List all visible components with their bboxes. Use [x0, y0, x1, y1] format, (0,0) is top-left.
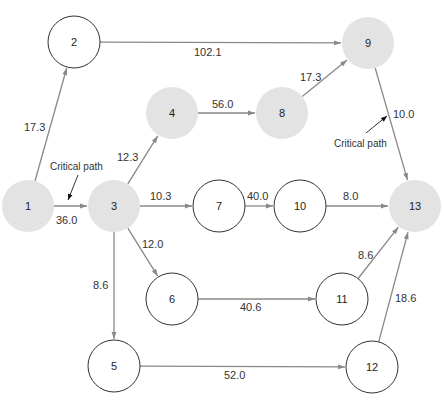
node-6: 6 [146, 273, 198, 325]
node-8: 8 [256, 87, 308, 139]
edge-weight-label: 8.6 [358, 249, 373, 261]
edge-weight-label: 12.3 [117, 151, 138, 163]
critical-path-network-diagram: 12345678910111213 17.336.0102.112.310.31… [0, 0, 444, 400]
node-label: 2 [71, 36, 77, 48]
node-label: 4 [169, 107, 175, 119]
node-label: 9 [365, 37, 371, 49]
edge-3-to-6 [128, 228, 158, 276]
node-label: 5 [111, 360, 117, 372]
edge-5-to-12 [140, 366, 345, 367]
node-label: 7 [216, 200, 222, 212]
node-4: 4 [146, 87, 198, 139]
node-label: 3 [111, 200, 117, 212]
node-7: 7 [193, 180, 245, 232]
node-3: 3 [88, 180, 140, 232]
edge-weight-label: 52.0 [224, 369, 245, 381]
edge-weight-label: 36.0 [56, 214, 77, 226]
edge-9-to-13 [375, 68, 407, 180]
edge-2-to-9 [100, 42, 341, 43]
node-2: 2 [48, 16, 100, 68]
node-label: 1 [25, 200, 31, 212]
node-9: 9 [342, 17, 394, 69]
edge-weight-label: 17.3 [24, 121, 45, 133]
edge-weight-label: 10.3 [150, 190, 171, 202]
node-5: 5 [88, 340, 140, 392]
edge-weight-label: 40.6 [240, 301, 261, 313]
node-label: 13 [409, 200, 421, 212]
pointer-arrow-icon [68, 175, 78, 200]
edge-weight-label: 8.0 [343, 190, 358, 202]
annotation-text: Critical path [334, 138, 387, 149]
critical-path-annotation: Critical path [334, 116, 387, 149]
node-13: 13 [389, 180, 441, 232]
edge-weight-label: 18.6 [395, 292, 416, 304]
edge-weight-label: 12.0 [142, 238, 163, 250]
edge-weight-label: 40.0 [247, 190, 268, 202]
node-12: 12 [346, 341, 398, 393]
node-10: 10 [274, 180, 326, 232]
edge-weight-label: 10.0 [393, 108, 414, 120]
nodes-group: 12345678910111213 [2, 16, 441, 393]
annotation-text: Critical path [50, 161, 103, 172]
node-label: 11 [336, 293, 347, 305]
edge-weight-label: 8.6 [93, 279, 108, 291]
edge-weight-label: 102.1 [194, 46, 222, 58]
node-label: 12 [366, 361, 378, 373]
node-label: 8 [279, 107, 285, 119]
edge-weight-label: 17.3 [300, 71, 321, 83]
node-1: 1 [2, 180, 54, 232]
node-11: 11 [316, 273, 368, 325]
node-label: 10 [294, 200, 306, 212]
edge-weight-label: 56.0 [212, 98, 233, 110]
pointer-arrow-icon [366, 116, 387, 133]
edge-12-to-13 [379, 232, 408, 342]
node-label: 6 [169, 293, 175, 305]
